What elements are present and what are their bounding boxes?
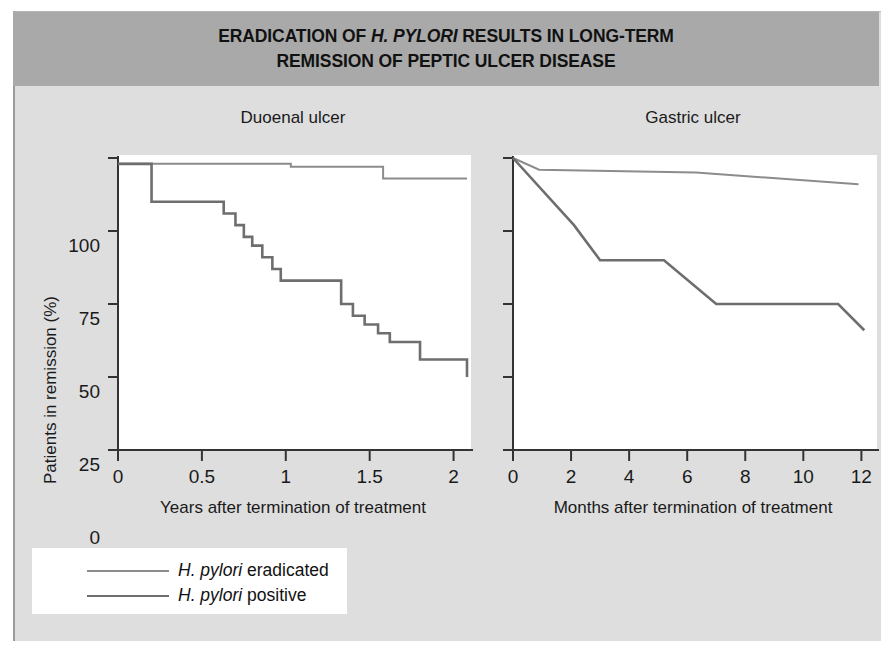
figure-title: ERADICATION OF H. PYLORI RESULTS IN LONG… [218,24,674,74]
x-tick-label: 0 [78,466,158,488]
legend-label-rest: positive [242,585,306,605]
legend-label-rest: eradicated [242,560,329,580]
gastric-x-axis-label: Months after termination of treatment [473,498,894,518]
legend-line-swatch [87,570,169,572]
figure-title-line-2: REMISSION OF PEPTIC ULCER DISEASE [218,49,674,74]
legend-item: H. pylori positive [32,583,347,608]
x-tick-label: 1.5 [330,466,410,488]
x-tick-label: 12 [821,466,894,488]
y-tick-label: 50 [8,381,100,403]
title-line1-pre: ERADICATION OF [218,26,371,46]
legend-item: H. pylori eradicated [32,558,347,583]
legend-label-italic: H. pylori [178,585,242,605]
y-tick-label: 75 [8,308,100,330]
legend-label: H. pylori positive [178,585,306,606]
legend-line-swatch [87,595,169,597]
legend: H. pylori eradicatedH. pylori positive [32,548,347,614]
figure-root: ERADICATION OF H. PYLORI RESULTS IN LONG… [0,0,894,653]
title-line1-italic: H. PYLORI [371,26,458,46]
figure-body: Duoenal ulcer Patients in remission (%) … [15,90,879,639]
figure-title-line-1: ERADICATION OF H. PYLORI RESULTS IN LONG… [218,24,674,49]
legend-label: H. pylori eradicated [178,560,329,581]
x-tick-label: 0.5 [162,466,242,488]
legend-label-italic: H. pylori [178,560,242,580]
x-tick-label: 1 [246,466,326,488]
figure-title-band: ERADICATION OF H. PYLORI RESULTS IN LONG… [13,12,879,86]
y-tick-label: 100 [8,235,100,257]
y-tick-label: 0 [8,527,100,549]
title-line1-post: RESULTS IN LONG-TERM [458,26,674,46]
